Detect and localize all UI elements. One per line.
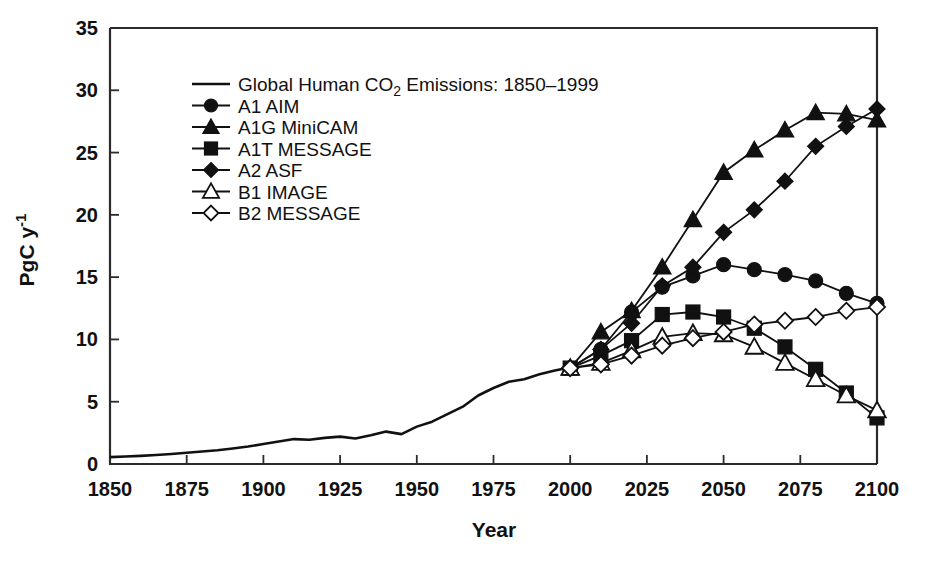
x-tick-label: 2075 <box>778 478 823 500</box>
emissions-chart: 0510152025303518501875190019251950197520… <box>0 0 936 570</box>
y-tick-label: 35 <box>76 17 98 39</box>
x-tick-label: 1900 <box>241 478 286 500</box>
y-tick-label: 15 <box>76 266 98 288</box>
x-tick-label: 1975 <box>471 478 516 500</box>
y-tick-label: 20 <box>76 204 98 226</box>
y-tick-label: 0 <box>87 453 98 475</box>
y-tick-label: 10 <box>76 328 98 350</box>
data-point-marker <box>717 310 731 324</box>
x-tick-label: 2025 <box>625 478 670 500</box>
legend-label-3: A2 ASF <box>238 160 302 181</box>
x-axis-title: Year <box>472 518 516 541</box>
x-tick-label: 2050 <box>701 478 746 500</box>
chart-canvas: 0510152025303518501875190019251950197520… <box>0 0 936 570</box>
x-tick-label: 2100 <box>855 478 900 500</box>
x-tick-label: 1925 <box>318 478 363 500</box>
y-tick-label: 25 <box>76 142 98 164</box>
legend-label-4: B1 IMAGE <box>238 182 328 203</box>
legend-label-1: A1G MiniCAM <box>238 117 358 138</box>
data-point-marker <box>205 142 218 155</box>
legend-label-2: A1T MESSAGE <box>238 139 372 160</box>
data-point-marker <box>747 263 761 277</box>
y-tick-label: 5 <box>87 391 98 413</box>
data-point-marker <box>778 340 792 354</box>
data-point-marker <box>778 268 792 282</box>
x-tick-label: 1875 <box>164 478 209 500</box>
data-point-marker <box>655 308 669 322</box>
data-point-marker <box>686 305 700 319</box>
y-tick-label: 30 <box>76 79 98 101</box>
legend-label-5: B2 MESSAGE <box>238 203 361 224</box>
data-point-marker <box>839 286 853 300</box>
x-tick-label: 2000 <box>548 478 593 500</box>
data-point-marker <box>205 99 218 112</box>
y-axis-title-superscript: -1 <box>12 214 29 227</box>
x-tick-label: 1950 <box>395 478 440 500</box>
y-axis-title-main: PgC y <box>15 227 38 287</box>
legend-label-0: A1 AIM <box>238 96 299 117</box>
x-tick-label: 1850 <box>88 478 133 500</box>
data-point-marker <box>809 274 823 288</box>
data-point-marker <box>717 258 731 272</box>
